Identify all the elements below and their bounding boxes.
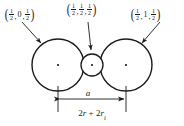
fraction-one-half: 12 [25, 8, 30, 22]
right-circle-coordinate-label: (12,1,12) [130, 7, 161, 22]
left-circle-coordinate-label: (12,0,12) [4, 7, 35, 22]
separator-comma: , [84, 8, 87, 16]
fraction-one-half: 12 [87, 3, 92, 17]
right-circle-center-dot [125, 64, 127, 66]
subscript-i: i [104, 114, 106, 121]
plus-operator: + [86, 108, 96, 118]
separator-comma: , [140, 13, 143, 21]
dimension-symbol-a: a [86, 89, 91, 98]
paren-close: ) [157, 7, 161, 22]
paren-open: ( [67, 2, 71, 17]
paren-close: ) [93, 2, 97, 17]
separator-comma: , [14, 13, 17, 21]
paren-open: ( [5, 7, 9, 22]
paren-close: ) [31, 7, 35, 22]
separator-comma: , [76, 8, 79, 16]
left-circle-center-dot [57, 64, 59, 66]
dimension-expression: 2r + 2ri [78, 109, 105, 120]
separator-comma: , [148, 13, 151, 21]
middle-leader-line [88, 22, 91, 50]
middle-circle-center-dot [91, 64, 93, 66]
right-leader-line [142, 22, 160, 43]
middle-circle-coordinate-label: (12,12,12) [66, 2, 97, 17]
separator-comma: , [22, 13, 25, 21]
circle-packing-diagram: (12,0,12) (12,12,12) (12,1,12) a 2r + 2r… [0, 0, 184, 126]
fraction-one-half: 12 [151, 8, 156, 22]
left-leader-line [22, 22, 41, 43]
paren-open: ( [131, 7, 135, 22]
